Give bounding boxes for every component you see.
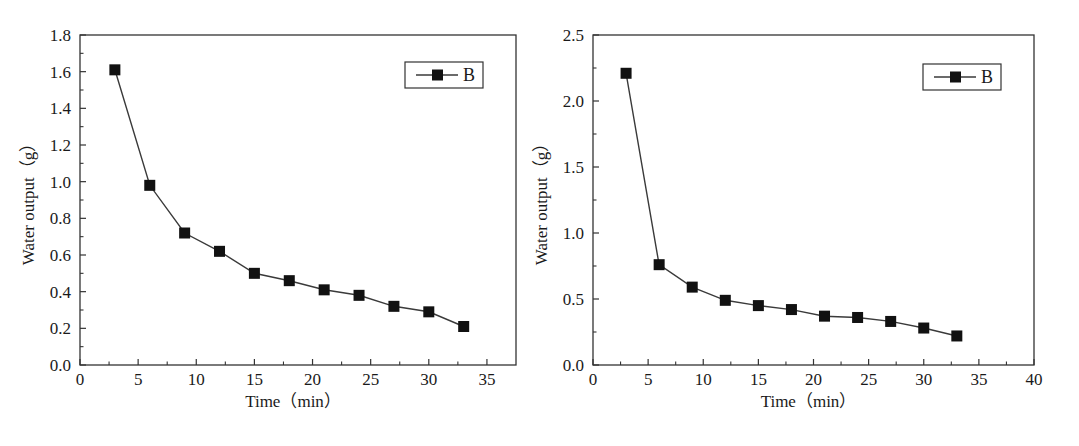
y-tick-label: 1.4 xyxy=(50,99,72,118)
y-tick-label: 0.6 xyxy=(50,246,71,265)
y-tick-label: 0.2 xyxy=(50,319,71,338)
data-point-square-marker xyxy=(109,64,120,75)
data-point-square-marker xyxy=(885,316,896,327)
y-tick-label: 2.0 xyxy=(563,92,584,111)
legend-label: B xyxy=(463,65,475,85)
x-tick-label: 30 xyxy=(915,370,932,389)
data-point-square-marker xyxy=(621,68,632,79)
x-axis-label: Time（min） xyxy=(761,392,857,411)
x-tick-label: 0 xyxy=(76,370,85,389)
chart-right-svg: 05101520253035400.00.51.01.52.02.5 Water… xyxy=(530,0,1079,446)
series-line xyxy=(115,70,464,327)
y-tick-label: 1.0 xyxy=(563,224,584,243)
data-point-square-marker xyxy=(179,228,190,239)
data-point-square-marker xyxy=(720,295,731,306)
y-tick-label: 1.5 xyxy=(563,158,584,177)
data-point-square-marker xyxy=(423,306,434,317)
square-marker-icon xyxy=(432,70,443,81)
data-point-square-marker xyxy=(753,300,764,311)
x-tick-label: 10 xyxy=(188,370,205,389)
data-point-square-marker xyxy=(144,180,155,191)
x-tick-label: 25 xyxy=(860,370,877,389)
x-tick-label: 5 xyxy=(134,370,143,389)
chart-right-water-output: 05101520253035400.00.51.01.52.02.5 Water… xyxy=(530,0,1079,446)
y-tick-label: 0.0 xyxy=(50,356,71,375)
y-tick-label: 0.8 xyxy=(50,209,71,228)
x-tick-label: 10 xyxy=(695,370,712,389)
data-point-square-marker xyxy=(951,330,962,341)
x-tick-label: 35 xyxy=(478,370,495,389)
y-tick-label: 0.0 xyxy=(563,356,584,375)
y-tick-label: 2.5 xyxy=(563,26,584,45)
x-tick-label: 15 xyxy=(246,370,263,389)
data-point-square-marker xyxy=(918,323,929,334)
data-point-square-marker xyxy=(249,268,260,279)
data-point-square-marker xyxy=(458,321,469,332)
x-tick-label: 0 xyxy=(589,370,598,389)
y-tick-label: 1.0 xyxy=(50,173,71,192)
data-point-square-marker xyxy=(786,304,797,315)
y-tick-label: 1.8 xyxy=(50,26,71,45)
y-axis-label: Water output（g） xyxy=(19,135,38,265)
y-tick-label: 0.4 xyxy=(50,283,72,302)
y-axis-label: Water output（g） xyxy=(532,135,551,265)
x-tick-label: 35 xyxy=(970,370,987,389)
square-marker-icon xyxy=(950,72,961,83)
legend: B xyxy=(923,64,1001,90)
data-point-square-marker xyxy=(654,259,665,270)
data-point-square-marker xyxy=(819,311,830,322)
series-line xyxy=(626,73,957,336)
chart-left-svg: 051015202530350.00.20.40.60.81.01.21.41.… xyxy=(0,0,540,446)
data-point-square-marker xyxy=(319,284,330,295)
y-tick-label: 0.5 xyxy=(563,290,584,309)
x-axis-label: Time（min） xyxy=(245,392,341,411)
y-tick-label: 1.2 xyxy=(50,136,71,155)
data-point-square-marker xyxy=(852,312,863,323)
data-point-square-marker xyxy=(284,275,295,286)
data-point-square-marker xyxy=(388,301,399,312)
legend: B xyxy=(405,62,483,88)
data-point-square-marker xyxy=(687,282,698,293)
data-point-square-marker xyxy=(214,246,225,257)
x-tick-label: 25 xyxy=(362,370,379,389)
legend-label: B xyxy=(981,67,993,87)
x-tick-label: 15 xyxy=(750,370,767,389)
x-tick-label: 5 xyxy=(644,370,653,389)
x-tick-label: 30 xyxy=(420,370,437,389)
x-tick-label: 20 xyxy=(805,370,822,389)
x-tick-label: 20 xyxy=(304,370,321,389)
x-tick-label: 40 xyxy=(1026,370,1043,389)
y-tick-label: 1.6 xyxy=(50,63,71,82)
data-point-square-marker xyxy=(354,290,365,301)
chart-left-water-output: 051015202530350.00.20.40.60.81.01.21.41.… xyxy=(0,0,540,446)
